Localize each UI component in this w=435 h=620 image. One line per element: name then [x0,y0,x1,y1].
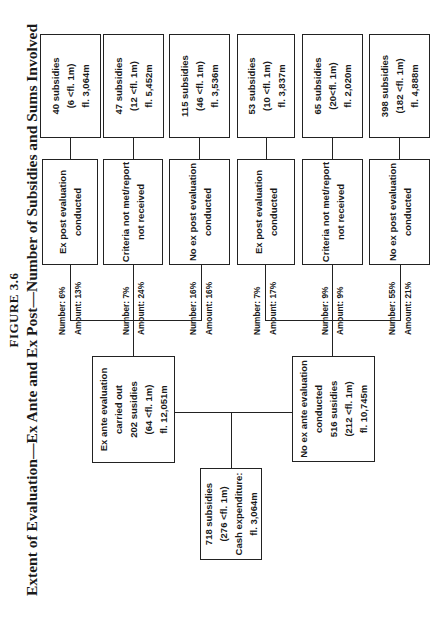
no-ex-ante-no-ex-post-box: No ex post evaluation conducted [369,159,430,265]
box-label: No ex post evaluation [185,163,200,261]
leaf-count: 40 subsidies [48,57,63,114]
box-label: conducted [200,188,215,236]
connector [332,138,333,159]
connector [133,138,134,159]
root-box: 718 subsidies (276 <fl. 1m) Cash expendi… [200,468,262,560]
leaf-box: 65 subsidies (20<fl. 1m) fl. 2,020m [302,34,363,138]
connector [400,265,401,321]
root-small-count: (276 <fl. 1m) [216,486,231,541]
no-ex-ante-title: No ex ante evaluation [296,360,311,458]
ex-ante-title: Ex ante evaluation [96,368,111,451]
box-label: Ex post evaluation [55,170,70,254]
figure-header: FIGURE 3.6 Extent of Evaluation—Ex Ante … [6,0,42,620]
box-label: not received [133,184,148,240]
connector [231,412,232,468]
leaf-amount: fl. 3,064m [78,64,93,107]
leaf-box: 40 subsidies (6 <fl. 1m) fl. 3,064m [40,34,101,138]
connector [70,138,71,159]
root-cash-value: fl. 3,064m [246,492,261,535]
connector [266,138,267,159]
leaf-amount: fl. 2,020m [340,64,355,107]
leaf-box: 398 subsidies (182 <fl. 1m) fl. 4,888m [369,34,430,138]
leaf-small-count: (12 <fl. 1m) [126,61,141,111]
figure-title: Extent of Evaluation—Ex Ante and Ex Post… [22,0,42,620]
edge-label-amount: Amount: 9% [335,287,346,335]
edge-label-number: Number: 7% [252,287,263,335]
leaf-amount: fl. 4,888m [407,64,422,107]
box-label: Criteria not met/report [318,162,333,262]
connector [332,265,333,356]
connector [201,265,202,321]
leaf-amount: fl. 3,536m [207,64,222,107]
edge-label-number: Number: 16% [188,282,199,335]
box-label: No ex post evaluation [385,163,400,261]
connector [70,265,71,321]
ex-ante-no-ex-post-box: No ex post evaluation conducted [169,159,230,265]
leaf-small-count: (182 <fl. 1m) [392,58,407,113]
leaf-small-count: (6 <fl. 1m) [63,64,78,109]
leaf-small-count: (20<fl. 1m) [325,62,340,109]
ex-ante-box: Ex ante evaluation carried out 202 susid… [92,356,175,463]
no-ex-ante-criteria-box: Criteria not met/report not received [302,159,363,265]
edge-label-amount: Amount: 16% [204,282,215,335]
no-ex-ante-subtitle: conducted [311,385,326,433]
box-label: conducted [266,188,281,236]
ex-ante-criteria-box: Criteria not met/report not received [103,159,163,265]
leaf-amount: fl. 3,837m [274,64,289,107]
ex-ante-count: 202 susidies [126,381,141,438]
diagram-canvas: FIGURE 3.6 Extent of Evaluation—Ex Ante … [0,0,435,620]
leaf-box: 53 subsidies (10 <fl. 1m) fl. 3,837m [237,34,295,138]
connector [399,138,400,159]
connector [265,265,266,321]
leaf-small-count: (10 <fl. 1m) [259,61,274,111]
leaf-amount: fl. 5,452m [141,64,156,107]
leaf-count: 53 subsidies [244,57,259,114]
no-ex-ante-small-count: (212 <fl. 1m) [341,381,356,436]
root-cash-label: Cash expenditure: [231,473,246,556]
edge-label-amount: Amount: 21% [403,282,414,335]
connector [133,265,134,356]
no-ex-ante-ex-post-box: Ex post evaluation conducted [237,159,295,265]
box-label: not received [333,184,348,240]
box-label: conducted [400,188,415,236]
box-label: Ex post evaluation [251,170,266,254]
leaf-count: 398 subsidies [377,55,392,117]
leaf-count: 65 subsidies [310,57,325,114]
no-ex-ante-box: No ex ante evaluation conducted 516 susi… [292,356,375,462]
root-count: 718 subsidies [201,483,216,545]
box-label: Criteria not met/report [118,162,133,262]
ex-ante-ex-post-box: Ex post evaluation conducted [42,159,98,265]
edge-label-number: Number: 7% [121,287,132,335]
edge-label-number: Number: 6% [57,287,68,335]
leaf-small-count: (46 <fl. 1m) [192,61,207,111]
edge-label-amount: Amount: 17% [268,282,279,335]
leaf-box: 47 subsidies (12 <fl. 1m) fl. 5,452m [103,34,164,138]
connector [199,138,200,159]
no-ex-ante-count: 516 susidies [326,381,341,438]
edge-label-number: Number: 9% [320,287,331,335]
leaf-box: 115 subsidies (46 <fl. 1m) fl. 3,536m [169,34,230,138]
ex-ante-small-count: (64 <fl. 1m) [141,385,156,435]
leaf-count: 115 subsidies [177,55,192,117]
leaf-count: 47 subsidies [111,57,126,114]
edge-label-number: Number: 55% [387,282,398,335]
edge-label-amount: Amount: 13% [73,282,84,335]
edge-label-amount: Amount: 24% [136,282,147,335]
box-label: conducted [70,188,85,236]
ex-ante-amount: fl. 12,051m [156,385,171,434]
ex-ante-subtitle: carried out [111,385,126,434]
figure-number: FIGURE 3.6 [6,0,22,620]
no-ex-ante-amount: fl. 10,745m [356,385,371,434]
